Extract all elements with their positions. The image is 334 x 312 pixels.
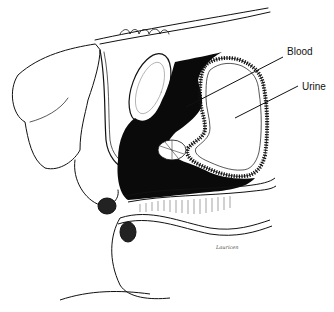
urine-space xyxy=(195,63,261,170)
artist-signature: Lauricen xyxy=(216,244,239,250)
label-blood: Blood xyxy=(287,46,313,57)
prostate xyxy=(158,140,186,160)
anatomical-illustration xyxy=(0,0,334,312)
abdominal-wall-outline xyxy=(95,8,268,40)
thigh-outline xyxy=(12,44,100,169)
rectum-lower-wall xyxy=(120,215,270,230)
label-urine: Urine xyxy=(302,81,326,92)
